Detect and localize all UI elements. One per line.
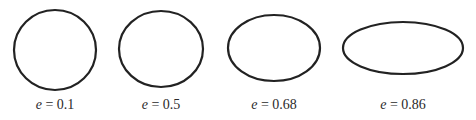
eccentricity-figure: e = 0.1 e = 0.5 e = 0.68 e = 0.86 bbox=[0, 0, 476, 120]
ellipse-e-0-68 bbox=[228, 15, 320, 81]
equals-sign: = bbox=[42, 97, 57, 112]
label-e-0-1: e = 0.1 bbox=[36, 95, 75, 115]
eccentricity-value: 0.1 bbox=[57, 97, 75, 112]
ellipse-e-0-5 bbox=[119, 11, 203, 87]
eccentricity-value: 0.5 bbox=[163, 97, 181, 112]
label-e-0-5: e = 0.5 bbox=[142, 95, 181, 115]
equals-sign: = bbox=[257, 97, 272, 112]
label-e-0-68: e = 0.68 bbox=[251, 95, 297, 115]
ellipse-e-0-86 bbox=[343, 22, 463, 74]
equals-sign: = bbox=[386, 97, 401, 112]
equals-sign: = bbox=[148, 97, 163, 112]
eccentricity-value: 0.86 bbox=[401, 97, 426, 112]
label-e-0-86: e = 0.86 bbox=[380, 95, 426, 115]
eccentricity-value: 0.68 bbox=[272, 97, 297, 112]
ellipse-e-0-1 bbox=[14, 10, 96, 90]
